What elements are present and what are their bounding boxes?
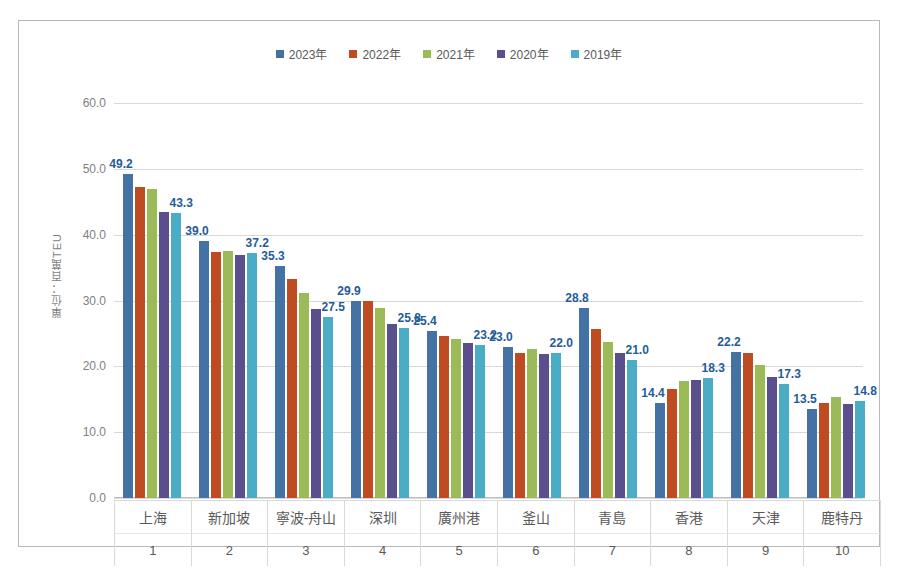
bar-group-鹿特丹: 13.514.8 <box>798 103 874 498</box>
bar-2019年-釜山[interactable]: 22.0 <box>551 353 561 498</box>
legend-swatch-icon <box>571 50 579 58</box>
bar-2019年-鹿特丹[interactable]: 14.8 <box>855 401 865 498</box>
bar-2019年-上海[interactable]: 43.3 <box>171 213 181 498</box>
bar-2021年-香港[interactable] <box>679 381 689 498</box>
bar-data-label: 28.8 <box>565 291 588 305</box>
legend-item-label: 2021年 <box>436 45 475 62</box>
bar-data-label: 13.5 <box>793 392 816 406</box>
bar-2023年-上海[interactable]: 49.2 <box>123 174 133 498</box>
bar-2021年-深圳[interactable] <box>375 308 385 498</box>
category-name: 天津 <box>728 501 804 533</box>
category-rank: 3 <box>268 533 344 566</box>
category-rank: 6 <box>498 533 574 566</box>
bar-2021年-天津[interactable] <box>755 365 765 498</box>
bar-group-香港: 14.418.3 <box>646 103 722 498</box>
bar-2022年-釜山[interactable] <box>515 353 525 498</box>
category-name: 新加坡 <box>192 501 268 533</box>
bar-2023年-廣州港[interactable]: 25.4 <box>427 331 437 498</box>
bar-2021年-新加坡[interactable] <box>223 251 233 498</box>
bar-group-廣州港: 25.423.2 <box>418 103 494 498</box>
category-rank: 4 <box>345 533 421 566</box>
legend-item-label: 2019年 <box>584 45 623 62</box>
category-name: 青島 <box>575 501 651 533</box>
bar-group-寧波-舟山: 35.327.5 <box>266 103 342 498</box>
category-rank: 7 <box>575 533 651 566</box>
gridline <box>114 498 863 499</box>
bar-2019年-青島[interactable]: 21.0 <box>627 360 637 498</box>
category-name: 香港 <box>651 501 727 533</box>
bar-2020年-廣州港[interactable] <box>463 343 473 498</box>
bar-2021年-上海[interactable] <box>147 189 157 498</box>
bar-data-label: 14.8 <box>854 384 877 398</box>
y-axis-tick-label: 0.0 <box>89 491 106 505</box>
y-axis-tick-label: 10.0 <box>83 425 106 439</box>
bar-2019年-廣州港[interactable]: 23.2 <box>475 345 485 498</box>
legend-item-2022年[interactable]: 2022年 <box>349 45 401 62</box>
legend-swatch-icon <box>276 50 284 58</box>
bar-2021年-青島[interactable] <box>603 342 613 498</box>
bar-2022年-上海[interactable] <box>135 187 145 498</box>
bar-2021年-釜山[interactable] <box>527 349 537 498</box>
legend-swatch-icon <box>423 50 431 58</box>
y-axis-tick-label: 50.0 <box>83 162 106 176</box>
bar-data-label: 25.4 <box>413 314 436 328</box>
bar-data-label: 29.9 <box>337 284 360 298</box>
bar-2022年-鹿特丹[interactable] <box>819 403 829 498</box>
category-name: 深圳 <box>345 501 421 533</box>
category-cell-廣州港: 廣州港5 <box>421 501 498 566</box>
bar-data-label: 35.3 <box>261 249 284 263</box>
bar-2020年-鹿特丹[interactable] <box>843 404 853 498</box>
bar-2020年-深圳[interactable] <box>387 324 397 498</box>
bar-2020年-青島[interactable] <box>615 353 625 498</box>
bar-group-天津: 22.217.3 <box>722 103 798 498</box>
bar-2021年-廣州港[interactable] <box>451 339 461 498</box>
legend-item-2019年[interactable]: 2019年 <box>571 45 623 62</box>
bar-2023年-鹿特丹[interactable]: 13.5 <box>807 409 817 498</box>
legend-item-2021年[interactable]: 2021年 <box>423 45 475 62</box>
bar-group-上海: 49.243.3 <box>114 103 190 498</box>
bar-2023年-天津[interactable]: 22.2 <box>731 352 741 498</box>
bar-group-青島: 28.821.0 <box>570 103 646 498</box>
bar-2020年-寧波-舟山[interactable] <box>311 309 321 498</box>
y-axis-tick-label: 20.0 <box>83 359 106 373</box>
bar-2023年-青島[interactable]: 28.8 <box>579 308 589 498</box>
bar-2022年-寧波-舟山[interactable] <box>287 279 297 498</box>
legend-item-2023年[interactable]: 2023年 <box>276 45 328 62</box>
category-rank: 1 <box>115 533 191 566</box>
bar-data-label: 23.0 <box>489 330 512 344</box>
bar-2020年-新加坡[interactable] <box>235 255 245 498</box>
bar-2022年-廣州港[interactable] <box>439 336 449 498</box>
bar-2022年-深圳[interactable] <box>363 301 373 499</box>
bar-2022年-香港[interactable] <box>667 389 677 498</box>
category-rank: 5 <box>421 533 497 566</box>
legend-item-2020年[interactable]: 2020年 <box>497 45 549 62</box>
bar-2020年-釜山[interactable] <box>539 354 549 498</box>
bar-2019年-天津[interactable]: 17.3 <box>779 384 789 498</box>
bar-2023年-香港[interactable]: 14.4 <box>655 403 665 498</box>
bar-2019年-深圳[interactable]: 25.8 <box>399 328 409 498</box>
bar-2019年-新加坡[interactable]: 37.2 <box>247 253 257 498</box>
bar-2021年-寧波-舟山[interactable] <box>299 293 309 498</box>
chart-frame: 2023年2022年2021年2020年2019年 單位：百萬TEU 60.05… <box>18 20 880 547</box>
legend-item-label: 2020年 <box>510 45 549 62</box>
bar-2021年-鹿特丹[interactable] <box>831 397 841 498</box>
bar-2020年-香港[interactable] <box>691 380 701 498</box>
bar-2022年-新加坡[interactable] <box>211 252 221 498</box>
bar-2023年-深圳[interactable]: 29.9 <box>351 301 361 498</box>
bar-2019年-寧波-舟山[interactable]: 27.5 <box>323 317 333 498</box>
bar-2023年-新加坡[interactable]: 39.0 <box>199 241 209 498</box>
legend-item-label: 2023年 <box>289 45 328 62</box>
category-name: 上海 <box>115 501 191 533</box>
bar-2023年-釜山[interactable]: 23.0 <box>503 347 513 498</box>
bar-2020年-上海[interactable] <box>159 212 169 498</box>
bar-2023年-寧波-舟山[interactable]: 35.3 <box>275 266 285 498</box>
bar-2020年-天津[interactable] <box>767 377 777 498</box>
category-rank: 10 <box>804 533 880 566</box>
y-axis-tick-label: 40.0 <box>83 228 106 242</box>
bar-2019年-香港[interactable]: 18.3 <box>703 378 713 498</box>
bar-2022年-天津[interactable] <box>743 353 753 498</box>
bar-2022年-青島[interactable] <box>591 329 601 498</box>
category-cell-天津: 天津9 <box>728 501 805 566</box>
category-name: 鹿特丹 <box>804 501 880 533</box>
bar-groups: 49.243.339.037.235.327.529.925.825.423.2… <box>114 103 863 498</box>
